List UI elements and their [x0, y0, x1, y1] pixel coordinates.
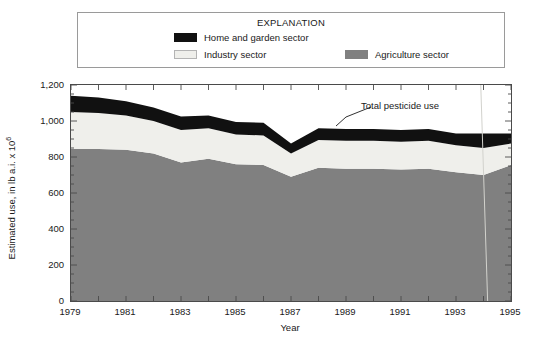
x-tick-label: 1989 — [323, 306, 367, 317]
legend-explanation-box: EXPLANATION Home and garden sector Indus… — [77, 12, 505, 68]
x-tick-label: 1995 — [488, 306, 532, 317]
x-tick-label: 1983 — [158, 306, 202, 317]
stacked-area-chart — [71, 85, 511, 301]
x-axis-title: Year — [70, 322, 510, 333]
legend-label-home-and-garden: Home and garden sector — [204, 32, 309, 43]
industry-swatch — [174, 50, 197, 59]
y-axis-title: Estimated use, in lb a.i. x 106 — [5, 113, 17, 283]
x-tick-label: 1987 — [268, 306, 312, 317]
x-tick-label: 1985 — [213, 306, 257, 317]
y-tick-label: 0 — [6, 295, 64, 306]
annotation-total-pesticide-use: Total pesticide use — [361, 100, 439, 111]
legend-entry-home-and-garden: Home and garden sector — [174, 32, 309, 43]
plot-area — [70, 84, 512, 302]
x-tick-label: 1993 — [433, 306, 477, 317]
legend-entry-agriculture: Agriculture sector — [345, 49, 449, 60]
y-tick-label: 1,200 — [6, 79, 64, 90]
legend-label-industry: Industry sector — [204, 49, 266, 60]
x-tick-label: 1981 — [103, 306, 147, 317]
x-tick-label: 1979 — [48, 306, 92, 317]
pesticide-use-figure: EXPLANATION Home and garden sector Indus… — [0, 0, 537, 345]
x-tick-label: 1991 — [378, 306, 422, 317]
home-and-garden-swatch — [174, 33, 197, 42]
agriculture-swatch — [345, 50, 368, 59]
y-axis-title-text: Estimated use, in lb a.i. x 10 — [6, 141, 17, 260]
y-axis-title-exponent: 6 — [5, 137, 12, 141]
legend-title: EXPLANATION — [78, 17, 504, 28]
legend-entry-industry: Industry sector — [174, 49, 266, 60]
legend-label-agriculture: Agriculture sector — [375, 49, 449, 60]
